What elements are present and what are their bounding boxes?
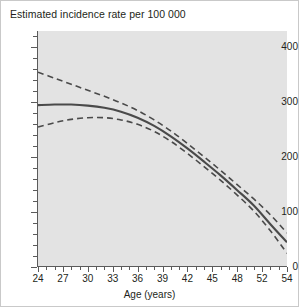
y-tick-minor <box>33 135 37 136</box>
x-tick-label: 24 <box>32 273 43 284</box>
x-tick-minor <box>129 267 130 270</box>
x-tick-label: 48 <box>232 273 243 284</box>
x-tick-major <box>187 267 188 272</box>
x-tick-major <box>287 267 288 272</box>
x-tick-major <box>163 267 164 272</box>
y-tick-minor <box>33 36 37 37</box>
y-tick-label: 200 <box>270 151 298 162</box>
y-tick-minor <box>33 223 37 224</box>
y-tick-major <box>31 102 37 103</box>
x-tick-major <box>262 267 263 272</box>
x-tick-major <box>88 267 89 272</box>
y-tick-minor <box>33 124 37 125</box>
chart-title: Estimated incidence rate per 100 000 <box>10 8 186 20</box>
y-tick-minor <box>33 234 37 235</box>
x-tick-minor <box>80 267 81 270</box>
y-tick-minor <box>33 179 37 180</box>
y-tick-minor <box>33 58 37 59</box>
x-tick-minor <box>146 267 147 270</box>
plot-area <box>38 31 287 267</box>
x-tick-major <box>237 267 238 272</box>
x-tick-label: 30 <box>82 273 93 284</box>
x-tick-label: 36 <box>132 273 143 284</box>
y-tick-minor <box>33 113 37 114</box>
chart-figure: Estimated incidence rate per 100 000 010… <box>0 0 299 307</box>
x-tick-minor <box>279 267 280 270</box>
x-tick-major <box>138 267 139 272</box>
y-tick-minor <box>33 245 37 246</box>
x-tick-label: 42 <box>182 273 193 284</box>
x-tick-minor <box>121 267 122 270</box>
x-tick-minor <box>246 267 247 270</box>
x-tick-minor <box>229 267 230 270</box>
y-tick-minor <box>33 69 37 70</box>
x-tick-minor <box>179 267 180 270</box>
x-tick-label: 33 <box>107 273 118 284</box>
curve-confidence-limit <box>38 72 287 233</box>
x-tick-minor <box>46 267 47 270</box>
x-tick-label: 27 <box>57 273 68 284</box>
y-tick-minor <box>33 201 37 202</box>
y-tick-label: 0 <box>270 261 298 272</box>
x-tick-minor <box>270 267 271 270</box>
y-tick-minor <box>33 80 37 81</box>
y-tick-minor <box>33 256 37 257</box>
x-tick-minor <box>104 267 105 270</box>
y-tick-minor <box>33 190 37 191</box>
x-tick-minor <box>254 267 255 270</box>
y-tick-minor <box>33 146 37 147</box>
x-tick-minor <box>221 267 222 270</box>
x-tick-major <box>212 267 213 272</box>
x-tick-label: 45 <box>207 273 218 284</box>
x-tick-minor <box>55 267 56 270</box>
x-tick-minor <box>204 267 205 270</box>
x-tick-label: 54 <box>281 273 292 284</box>
x-tick-minor <box>96 267 97 270</box>
x-axis-title: Age (years) <box>1 289 298 300</box>
plot-curves <box>38 31 287 267</box>
x-tick-major <box>113 267 114 272</box>
x-tick-minor <box>154 267 155 270</box>
y-tick-major <box>31 212 37 213</box>
x-tick-minor <box>196 267 197 270</box>
y-tick-label: 300 <box>270 96 298 107</box>
x-tick-minor <box>171 267 172 270</box>
y-tick-major <box>31 157 37 158</box>
y-tick-label: 100 <box>270 206 298 217</box>
curve-confidence-limit <box>38 117 287 253</box>
y-tick-major <box>31 267 37 268</box>
y-axis-line <box>37 31 38 267</box>
x-tick-major <box>38 267 39 272</box>
x-tick-label: 52 <box>257 273 268 284</box>
y-tick-major <box>31 47 37 48</box>
y-tick-minor <box>33 168 37 169</box>
y-tick-minor <box>33 91 37 92</box>
y-tick-label: 400 <box>270 41 298 52</box>
x-tick-major <box>63 267 64 272</box>
x-tick-label: 39 <box>157 273 168 284</box>
x-tick-minor <box>71 267 72 270</box>
